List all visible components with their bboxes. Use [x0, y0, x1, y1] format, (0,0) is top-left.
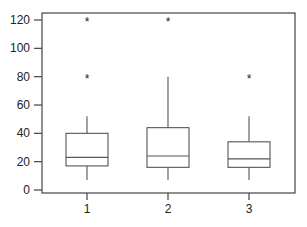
box-series: **** [66, 15, 270, 180]
y-tick-label: 120 [10, 13, 30, 27]
box-group-1: ** [66, 15, 108, 180]
outlier-marker: * [85, 15, 90, 29]
iqr-box [228, 142, 270, 168]
box-group-2: * [147, 15, 189, 180]
box-plot-chart: 020406080100120 123 **** [0, 0, 307, 227]
outlier-marker: * [166, 15, 171, 29]
y-axis: 020406080100120 [10, 13, 42, 197]
x-axis: 123 [84, 193, 253, 216]
outlier-marker: * [85, 72, 90, 86]
y-tick-label: 60 [17, 98, 31, 112]
x-tick-label: 2 [165, 202, 172, 216]
y-tick-label: 0 [23, 183, 30, 197]
x-tick-label: 1 [84, 202, 91, 216]
y-tick-label: 100 [10, 41, 30, 55]
outlier-marker: * [247, 72, 252, 86]
box-group-3: * [228, 72, 270, 180]
x-tick-label: 3 [246, 202, 253, 216]
iqr-box [147, 128, 189, 168]
y-tick-label: 80 [17, 70, 31, 84]
iqr-box [66, 133, 108, 166]
y-tick-label: 40 [17, 126, 31, 140]
y-tick-label: 20 [17, 155, 31, 169]
